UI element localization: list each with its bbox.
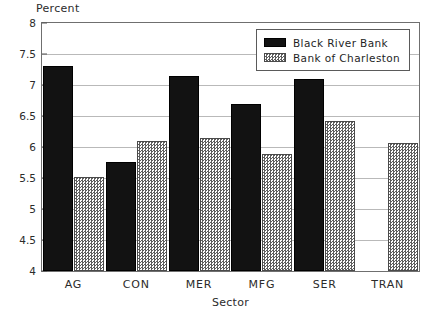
legend-swatch-icon <box>264 38 286 47</box>
x-axis-tick-label: TRAN <box>371 278 404 291</box>
legend-swatch-icon <box>264 53 286 62</box>
y-axis-tick-label: 8 <box>29 17 42 29</box>
x-axis-tick-label: MER <box>186 278 212 291</box>
y-axis-tick-label: 4.5 <box>19 234 42 246</box>
bar <box>137 141 167 271</box>
bar <box>43 66 73 271</box>
y-axis-tick-label: 7.5 <box>19 48 42 60</box>
y-axis-tick-label: 6.5 <box>19 110 42 122</box>
bar <box>294 79 324 271</box>
y-axis-tick-label: 6 <box>29 141 42 153</box>
legend-label: Black River Bank <box>293 37 388 49</box>
bar-chart: Percent 44.555.566.577.58AGCONMERMFGSERT… <box>0 0 440 321</box>
bar <box>388 143 418 271</box>
bar <box>262 154 292 271</box>
y-axis-tick-label: 5.5 <box>19 172 42 184</box>
bar-group: CON <box>105 23 168 271</box>
x-axis-tick-label: CON <box>123 278 150 291</box>
x-axis-tick-label: MFG <box>249 278 276 291</box>
legend-item: Bank of Charleston <box>264 50 400 65</box>
legend-label: Bank of Charleston <box>293 52 400 64</box>
bar-group: AG <box>42 23 105 271</box>
x-axis-tick-label: AG <box>65 278 82 291</box>
legend-item: Black River Bank <box>264 35 400 50</box>
bar-group: MER <box>168 23 231 271</box>
chart-legend: Black River BankBank of Charleston <box>256 29 410 71</box>
x-axis-label: Sector <box>41 296 420 309</box>
y-axis-label: Percent <box>36 2 80 15</box>
bar <box>169 76 199 271</box>
y-axis-tick-label: 4 <box>29 265 42 277</box>
bar <box>325 121 355 271</box>
bar <box>200 138 230 271</box>
bar <box>106 162 136 271</box>
y-axis-tick-label: 5 <box>29 203 42 215</box>
x-axis-tick-label: SER <box>313 278 337 291</box>
bar <box>74 177 104 271</box>
y-axis-tick-label: 7 <box>29 79 42 91</box>
bar <box>231 104 261 271</box>
